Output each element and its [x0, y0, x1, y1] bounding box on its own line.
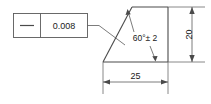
vdim-arrowhead-top: [189, 7, 194, 14]
horizontal-dimension-25[interactable]: 25: [103, 62, 168, 94]
technical-drawing-canvas: 0.008 60°± 2: [0, 0, 211, 104]
drawing-svg: 0.008 60°± 2: [0, 0, 211, 104]
vdim-value: 20: [184, 29, 194, 39]
hdim-arrowhead-right: [161, 79, 168, 84]
angle-callout-text: 60°± 2: [133, 33, 158, 43]
vertical-dimension-20[interactable]: 20: [168, 7, 205, 62]
vdim-arrowhead-bottom: [189, 55, 194, 62]
angle-leader-lower-arrowhead: [152, 56, 157, 62]
feature-control-frame[interactable]: 0.008: [14, 14, 88, 38]
part-edge-slant: [103, 7, 132, 62]
hdim-arrowhead-left: [103, 79, 110, 84]
angle-callout[interactable]: 60°± 2: [126, 10, 158, 62]
tolerance-value: 0.008: [53, 21, 76, 31]
hdim-value: 25: [130, 71, 140, 81]
frame-leader: [88, 26, 126, 46]
